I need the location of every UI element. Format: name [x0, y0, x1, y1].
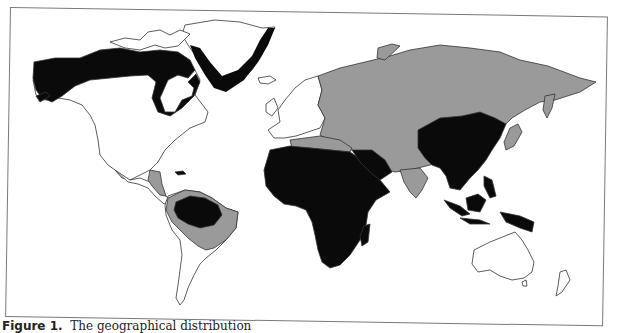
- borneo-endemic: [466, 194, 486, 212]
- australia: [472, 232, 534, 280]
- japan-intermediate: [504, 124, 522, 150]
- new-guinea-endemic: [500, 212, 534, 232]
- figure-label: Figure 1.: [2, 319, 63, 333]
- central-america-intermediate: [148, 170, 166, 196]
- figure-caption: Figure 1. The geographical distribution: [2, 319, 251, 333]
- caption-text: The geographical distribution: [70, 319, 251, 333]
- tasmania: [522, 280, 527, 286]
- arctic-islands: [110, 30, 190, 50]
- caribbean-endemic: [175, 171, 186, 175]
- kamchatka: [543, 94, 555, 118]
- java-endemic: [460, 218, 490, 224]
- china-sea-endemic: [418, 112, 506, 190]
- uk: [266, 98, 278, 116]
- indonesia-endemic: [444, 200, 470, 216]
- world-map: [0, 0, 618, 333]
- philippines-endemic: [484, 176, 496, 198]
- iceland: [258, 76, 276, 84]
- new-zealand: [556, 270, 570, 296]
- south-asia-intermediate: [400, 168, 428, 198]
